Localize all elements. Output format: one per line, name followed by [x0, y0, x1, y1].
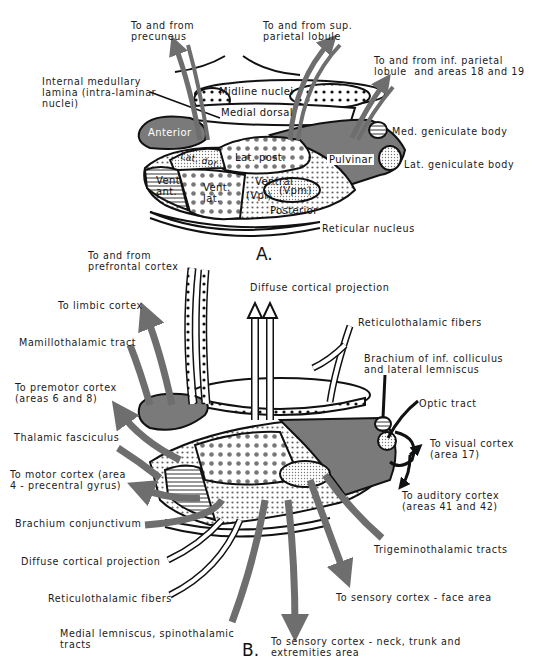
label-thalamic-fasciculus: Thalamic fasciculus: [14, 432, 119, 443]
label-reticulothalamic-bottom: Reticulothalamic fibers: [48, 593, 172, 604]
label-limbic: To limbic cortex: [58, 300, 143, 311]
label-sup-parietal: To and from sup. parietal lobule: [263, 20, 352, 42]
label-inf-parietal: To and from inf. parietal lobule and are…: [374, 55, 525, 77]
label-prefrontal: To and from prefrontal cortex: [88, 250, 179, 272]
label-precuneus: To and from precuneus: [131, 20, 194, 42]
nucleus-anterior: Anterior: [148, 127, 192, 138]
label-med-geniculate: Med. geniculate body: [392, 126, 507, 137]
label-lat-geniculate: Lat. geniculate body: [404, 159, 514, 170]
caption-b: B.: [242, 640, 259, 660]
label-reticular-nucleus: Reticular nucleus: [322, 223, 415, 234]
nucleus-vpm: (Vpm): [279, 185, 312, 196]
label-brachium-inf-colliculus: Brachium of inf. colliculus and lateral …: [364, 353, 503, 375]
label-medial-lemniscus: Medial lemniscus, spinothalamic tracts: [60, 628, 235, 650]
label-internal-medullary-lamina: Internal medullary lamina (intra-laminar…: [42, 76, 156, 109]
label-diffuse-bottom: Diffuse cortical projection: [21, 556, 160, 567]
nucleus-vent-lat: Vent. lat.: [203, 182, 231, 204]
label-premotor: To premotor cortex (areas 6 and 8): [15, 382, 117, 404]
label-auditory-cortex: To auditory cortex (areas 41 and 42): [402, 490, 499, 512]
nucleus-vent-ant: Vent. ant.: [156, 175, 184, 197]
label-diffuse-top: Diffuse cortical projection: [250, 282, 389, 293]
label-trigeminothalamic: Trigeminothalamic tracts: [374, 544, 508, 555]
label-brachium-conjunctivum: Brachium conjunctivum: [15, 518, 141, 529]
label-reticulothalamic-top: Reticulothalamic fibers: [358, 317, 482, 328]
nucleus-posterior: Posterior: [270, 205, 318, 216]
nucleus-medial-dorsal: Medial dorsal: [221, 107, 293, 118]
label-optic-tract: Optic tract: [419, 398, 477, 409]
label-sensory-neck: To sensory cortex - neck, trunk and extr…: [271, 636, 461, 658]
label-mamillothalamic: Mamillothalamic tract: [19, 337, 136, 348]
label-sensory-face: To sensory cortex - face area: [336, 592, 492, 603]
label-visual-cortex: To visual cortex (area 17): [430, 438, 514, 460]
caption-a: A.: [256, 244, 273, 264]
nucleus-lat-post: Lat. post.: [235, 152, 286, 163]
nucleus-midline: Midline nuclei: [219, 86, 293, 97]
nucleus-vpl: (Vpl): [246, 190, 272, 201]
nucleus-pulvinar: Pulvinar: [327, 154, 374, 165]
label-motor-cortex: To motor cortex (area 4 - precentral gyr…: [10, 469, 126, 491]
